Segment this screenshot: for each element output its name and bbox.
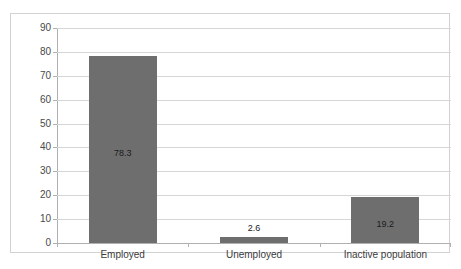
category-tick — [320, 243, 321, 247]
chart-frame: 0102030405060708090 78.32.619.2 Employed… — [10, 13, 450, 253]
y-axis-label-40: 40 — [40, 142, 51, 152]
y-axis-label-20: 20 — [40, 190, 51, 200]
y-axis-label-0: 0 — [45, 238, 51, 248]
y-axis-label-10: 10 — [40, 214, 51, 224]
y-axis-label-50: 50 — [40, 119, 51, 129]
bar-value-label: 2.6 — [248, 224, 261, 233]
bar-inactive-population[interactable]: 19.2 — [351, 197, 419, 243]
y-axis-label-80: 80 — [40, 47, 51, 57]
category-label-unemployed: Unemployed — [226, 250, 282, 260]
y-axis-label-30: 30 — [40, 166, 51, 176]
category-tick — [57, 243, 58, 247]
y-axis-label-60: 60 — [40, 95, 51, 105]
category-label-employed: Employed — [100, 250, 144, 260]
bar-employed[interactable]: 78.3 — [89, 56, 157, 243]
category-tick — [188, 243, 189, 247]
category-label-inactive-population: Inactive population — [344, 250, 427, 260]
category-axis: EmployedUnemployedInactive population — [57, 243, 451, 267]
category-tick — [450, 243, 451, 247]
bar-value-label: 78.3 — [114, 149, 132, 158]
bar-value-label: 19.2 — [377, 220, 395, 229]
y-axis-label-90: 90 — [40, 23, 51, 33]
y-axis-label-70: 70 — [40, 71, 51, 81]
plot-area: 0102030405060708090 78.32.619.2 — [57, 28, 451, 243]
bar-series: 78.32.619.2 — [57, 28, 451, 243]
